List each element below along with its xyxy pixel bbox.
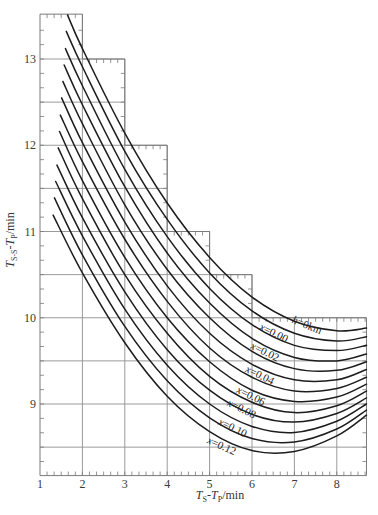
curve-label-value: =0km: [295, 315, 324, 336]
curve-label-value: =0.12: [210, 436, 238, 457]
curve-label: x=0.02: [248, 339, 281, 364]
x-tick-label: 1: [37, 477, 43, 491]
curve-label-value: =0.00: [262, 323, 291, 345]
curve-label-value: =0.04: [248, 365, 277, 387]
curve-1: [68, 15, 367, 331]
curve-labels: h=0kmx=0.00x=0.02x=0.04x=0.06x=0.08x=0.1…: [205, 313, 325, 457]
y-tick-label: 12: [24, 138, 36, 152]
curve-9: [58, 148, 366, 413]
y-axis-label: TS-S-TP/min: [3, 212, 19, 267]
axis-label-part: /min: [222, 488, 244, 502]
y-tick-label: 11: [24, 225, 36, 239]
x-tick-label: 2: [79, 477, 85, 491]
minor-ticks: [40, 14, 366, 475]
curve-label: h=0km: [290, 313, 324, 336]
x-axis-label: TS-TP/min: [196, 488, 244, 504]
axis-label-part: /min: [3, 212, 17, 234]
x-tick-label: 4: [164, 477, 170, 491]
x-tick-label: 6: [249, 477, 255, 491]
grid-lines: [40, 14, 366, 475]
x-tick-label: 3: [122, 477, 128, 491]
y-tick-label: 9: [30, 397, 36, 411]
plot-outline: [40, 14, 366, 475]
curve-label-value: =0.10: [221, 417, 250, 439]
y-tick-label: 10: [24, 311, 36, 325]
curve-10: [57, 165, 367, 422]
x-tick-label: 7: [291, 477, 297, 491]
plot-frame: [40, 14, 366, 475]
x-tick-label: 8: [334, 477, 340, 491]
curve-label: x=0.04: [243, 362, 277, 387]
axis-label-part: S-S: [10, 249, 19, 261]
chart-canvas: h=0kmx=0.00x=0.02x=0.04x=0.06x=0.08x=0.1…: [0, 0, 378, 515]
y-tick-label: 13: [24, 52, 36, 66]
